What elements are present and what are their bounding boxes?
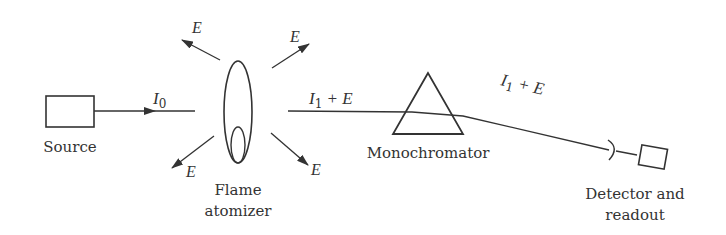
flame-label-line2: atomizer [205,202,273,220]
source-label: Source [43,138,97,156]
readout-box [638,145,667,169]
i1-plus-e-label: I1 + E [308,89,353,111]
i1-plus-e-label-2: I1 + E [497,70,546,102]
emission-arrow-upper-left-icon [182,40,220,60]
emission-label-lower-left: E [185,163,196,180]
emission-arrow-upper-right-icon [272,44,309,68]
flame-aas-diagram: Source I0 Flame atomizer E E E E I1 + E … [0,0,726,235]
emission-label-upper-left: E [191,19,202,36]
detector-label-line2: readout [605,206,664,224]
post-mono-label-group: I1 + E [497,70,546,102]
prism-icon [393,73,463,134]
source-box [46,96,94,127]
detector-readout: Detector and readout [585,140,685,224]
emission-label-lower-right: E [310,161,321,178]
detector-connector [616,151,637,155]
monochromator-label: Monochromator [367,144,491,162]
flame-label-line1: Flame [214,181,261,199]
emission-label-upper-right: E [289,28,300,45]
flame-inner-icon [231,127,245,163]
detector-label-line1: Detector and [585,185,685,203]
flame-outer-icon [224,61,252,163]
transmitted-beam: I1 + E [288,89,609,150]
i0-label: I0 [152,89,166,111]
emission-arrows: E E E E [172,19,321,180]
incident-beam: I0 [94,89,195,111]
emission-arrow-lower-right-icon [271,133,308,165]
source-block: Source [43,96,97,156]
flame-atomizer: Flame atomizer [205,61,273,220]
